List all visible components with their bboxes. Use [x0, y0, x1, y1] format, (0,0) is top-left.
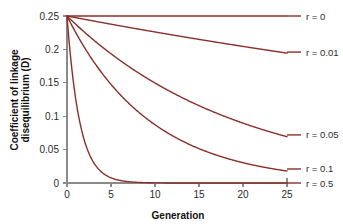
linkage-disequilibrium-chart: 0510152025 00.050.10.150.20.25 r = 0r = …: [0, 0, 343, 224]
x-tick-label: 5: [108, 189, 114, 200]
curve-r-0-5: [67, 16, 287, 183]
series-label: r = 0: [306, 11, 325, 22]
x-tick-label: 0: [64, 189, 70, 200]
y-axis-title: Coefficient of linkage disequilibrium (D…: [9, 49, 31, 151]
curve-r-0-01: [67, 16, 287, 53]
data-curves: [67, 16, 301, 183]
x-tick-label: 10: [149, 189, 161, 200]
y-tick-label: 0.1: [45, 111, 59, 122]
series-inline-labels: r = 0r = 0.01r = 0.05r = 0.1r = 0.5: [306, 11, 338, 189]
y-tick-label: 0.25: [40, 11, 60, 22]
y-tick-label: 0.15: [40, 77, 60, 88]
x-tick-label: 25: [281, 189, 293, 200]
y-tick-label: 0.05: [40, 144, 60, 155]
y-tick-label: 0.2: [45, 44, 59, 55]
x-tick-label: 15: [193, 189, 205, 200]
series-label: r = 0.05: [306, 129, 338, 140]
curve-r-0-1: [67, 16, 287, 171]
y-axis-title-line1: Coefficient of linkage: [9, 49, 20, 151]
chart-canvas: 0510152025 00.050.10.150.20.25 r = 0r = …: [0, 0, 343, 224]
x-axis-tick-labels: 0510152025: [64, 189, 293, 200]
series-label: r = 0.1: [306, 163, 333, 174]
x-axis-title: Generation: [152, 210, 205, 221]
series-label: r = 0.5: [306, 178, 333, 189]
y-axis-tick-labels: 00.050.10.150.20.25: [40, 11, 60, 189]
curve-r-0-05: [67, 16, 287, 137]
series-label: r = 0.01: [306, 47, 338, 58]
x-tick-label: 20: [237, 189, 249, 200]
y-tick-label: 0: [53, 178, 59, 189]
y-axis-title-line2: disequilibrium (D): [20, 58, 31, 143]
